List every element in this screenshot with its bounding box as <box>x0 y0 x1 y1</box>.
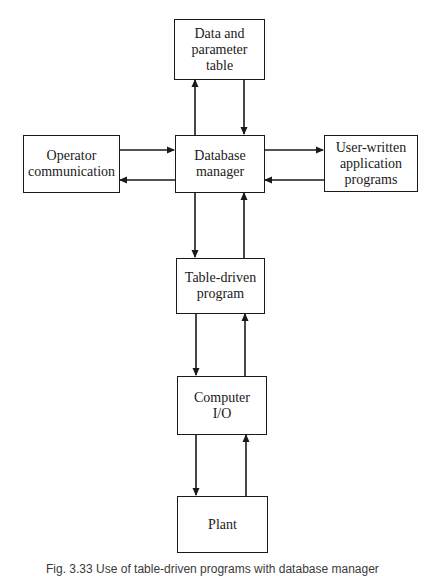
computer-io-box: Computer I/O <box>177 376 267 435</box>
operator-communication-box: Operator communication <box>23 135 120 193</box>
data-parameter-table-box: Data and parameter table <box>174 19 265 80</box>
figure-caption: Fig. 3.33 Use of table-driven programs w… <box>46 562 379 576</box>
plant-label: Plant <box>208 517 237 533</box>
user-written-programs-box: User-written application programs <box>324 135 418 192</box>
database-manager-label: Database manager <box>194 148 245 180</box>
table-driven-program-label: Table-driven program <box>185 270 256 302</box>
user-written-programs-label: User-written application programs <box>336 140 406 188</box>
computer-io-label: Computer I/O <box>194 390 250 422</box>
operator-communication-label: Operator communication <box>28 148 115 180</box>
plant-box: Plant <box>177 496 268 553</box>
table-driven-program-box: Table-driven program <box>176 258 265 314</box>
data-parameter-table-label: Data and parameter table <box>192 26 248 74</box>
database-manager-box: Database manager <box>175 135 265 193</box>
